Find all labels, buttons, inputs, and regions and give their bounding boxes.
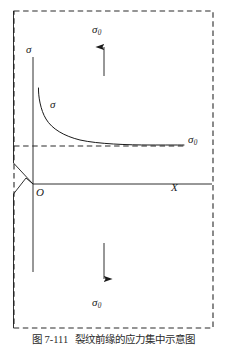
x-axis-label: X bbox=[171, 182, 178, 193]
sigma0-top-label: σ0 bbox=[92, 24, 101, 37]
sigma0-asymptote-label: σ0 bbox=[188, 134, 197, 147]
stress-distribution-curve bbox=[38, 88, 184, 145]
sigma-curve-label: σ bbox=[50, 99, 55, 110]
sigma0-bottom-label: σ0 bbox=[92, 297, 101, 310]
dashed-frame-border bbox=[14, 11, 213, 328]
figure-caption-number: 图 7-111 bbox=[32, 334, 68, 345]
sigma-axis-label: σ bbox=[26, 44, 31, 55]
plate-perspective-crack-edge bbox=[26, 178, 33, 184]
figure-caption-text: 裂纹前缘的应力集中示意图 bbox=[75, 334, 195, 345]
plate-perspective-lower-edge bbox=[14, 178, 27, 194]
origin-label: O bbox=[36, 187, 44, 198]
figure-caption: 图 7-111裂纹前缘的应力集中示意图 bbox=[0, 331, 227, 346]
